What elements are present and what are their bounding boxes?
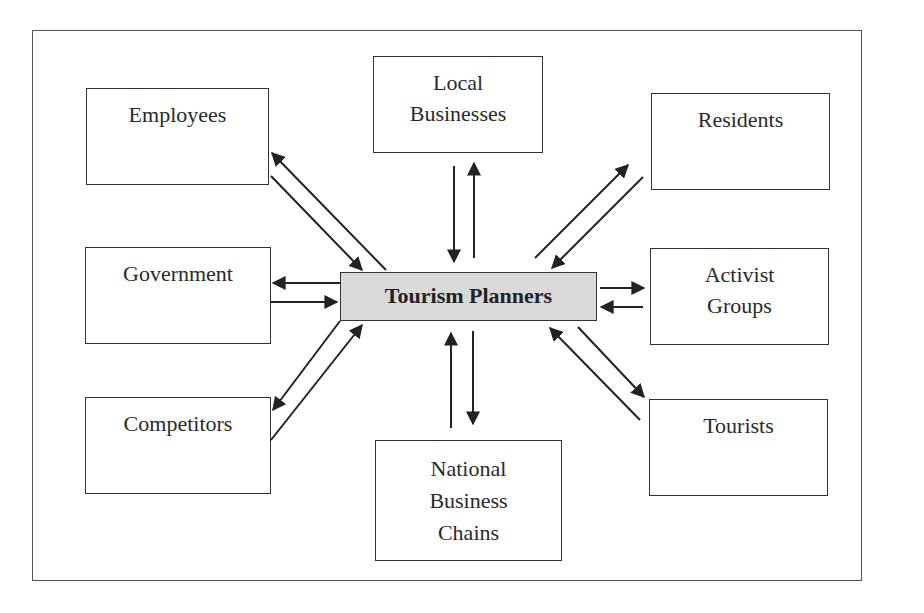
node-label: Businesses (374, 98, 542, 129)
node-label: Business (376, 485, 561, 517)
center-label: Tourism Planners (385, 283, 552, 308)
node-tourism-planners: Tourism Planners (340, 272, 597, 321)
node-employees: Employees (86, 88, 269, 185)
node-label: National (376, 453, 561, 485)
node-tourists: Tourists (649, 399, 828, 496)
node-label: Government (86, 258, 270, 289)
node-label: Residents (652, 104, 829, 135)
node-label: Chains (376, 517, 561, 549)
node-activist-groups: Activist Groups (650, 248, 829, 345)
node-national-business-chains: National Business Chains (375, 440, 562, 561)
node-residents: Residents (651, 93, 830, 190)
node-label: Employees (87, 99, 268, 130)
node-local-businesses: Local Businesses (373, 56, 543, 153)
node-label: Activist (651, 259, 828, 290)
node-label: Groups (651, 290, 828, 321)
node-label: Local (374, 67, 542, 98)
node-government: Government (85, 247, 271, 344)
node-competitors: Competitors (85, 397, 271, 494)
node-label: Competitors (86, 408, 270, 439)
node-label: Tourists (650, 410, 827, 441)
